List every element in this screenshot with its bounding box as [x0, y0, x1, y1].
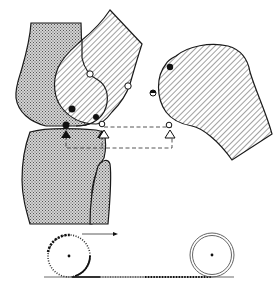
femur-displaced	[159, 44, 273, 160]
left-wheel-center	[68, 255, 71, 258]
marker-open-dot	[166, 122, 172, 128]
marker-open-triangle	[165, 130, 175, 138]
marker-open-dot	[125, 83, 131, 89]
right-wheel-center	[211, 254, 214, 257]
marker-open-dot	[99, 121, 105, 127]
marker-filled-dot	[167, 64, 173, 70]
marker-open-dot	[87, 71, 93, 77]
rolling-illustration	[44, 232, 234, 277]
knee-mechanics-diagram	[0, 0, 279, 287]
marker-filled-dot	[93, 114, 99, 120]
marker-filled-dot	[63, 122, 70, 129]
marker-filled-dot	[69, 106, 76, 113]
